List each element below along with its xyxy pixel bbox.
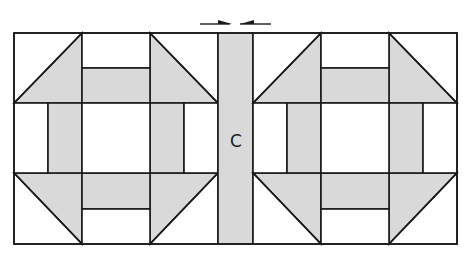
bar-left xyxy=(48,103,82,173)
arrow-left-icon xyxy=(240,20,271,24)
arrow-right-icon xyxy=(200,20,232,24)
right-churn-dash-block xyxy=(253,33,457,244)
center-square xyxy=(321,103,389,173)
center-square xyxy=(82,103,150,173)
left-churn-dash-block xyxy=(14,33,218,244)
bar-right xyxy=(389,103,423,173)
bar-bottom xyxy=(321,173,389,209)
quilt-diagram: C xyxy=(0,0,465,266)
bar-right xyxy=(150,103,184,173)
bar-left xyxy=(287,103,321,173)
bar-bottom xyxy=(82,173,150,209)
press-arrows xyxy=(200,20,271,24)
bar-top xyxy=(82,68,150,103)
bar-top xyxy=(321,68,389,103)
sashing-label: C xyxy=(230,131,242,151)
